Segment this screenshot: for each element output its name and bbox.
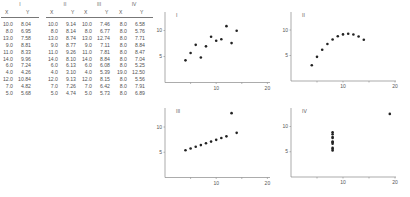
- data-point: [200, 56, 203, 59]
- data-point: [342, 33, 345, 36]
- x-tick-label: 10: [213, 180, 219, 186]
- x-tick-label: 10: [213, 85, 219, 91]
- data-point: [184, 149, 187, 152]
- data-point: [321, 48, 324, 51]
- scatter-plot-ii: 1020510II: [282, 12, 398, 89]
- data-point: [220, 38, 223, 41]
- data-point: [331, 38, 334, 41]
- scatter-plots: 1020510I1020510II1020510III1020510IV: [0, 0, 410, 197]
- data-point: [215, 139, 218, 142]
- y-tick-label: 5: [159, 53, 162, 59]
- panel-label: III: [176, 108, 180, 114]
- y-tick-label: 5: [285, 52, 288, 58]
- data-point: [363, 38, 366, 41]
- y-tick-label: 5: [159, 149, 162, 155]
- data-point: [347, 32, 350, 35]
- scatter-plot-iv: 1020510IV: [282, 108, 398, 185]
- x-tick-label: 20: [265, 180, 271, 186]
- data-point: [352, 33, 355, 36]
- data-point: [220, 137, 223, 140]
- data-point: [235, 29, 238, 32]
- data-point: [225, 25, 228, 28]
- panel-label: I: [176, 12, 177, 18]
- data-point: [205, 142, 208, 145]
- x-tick-label: 20: [392, 179, 398, 185]
- data-point: [194, 145, 197, 148]
- data-point: [215, 39, 218, 42]
- scatter-plot-iii: 1020510III: [156, 108, 270, 186]
- scatter-plot-i: 1020510I: [156, 12, 270, 91]
- data-point: [331, 141, 334, 144]
- y-tick-label: 10: [282, 123, 288, 129]
- x-tick-label: 20: [392, 83, 398, 89]
- data-point: [337, 35, 340, 38]
- data-point: [357, 35, 360, 38]
- data-point: [235, 132, 238, 135]
- panel-label: IV: [302, 108, 307, 114]
- data-point: [210, 140, 213, 143]
- data-point: [389, 113, 392, 116]
- data-point: [311, 64, 314, 67]
- y-tick-label: 10: [156, 124, 162, 130]
- data-point: [316, 56, 319, 59]
- data-point: [326, 43, 329, 46]
- data-point: [205, 45, 208, 48]
- data-point: [230, 42, 233, 45]
- data-point: [189, 147, 192, 150]
- data-point: [225, 135, 228, 138]
- panel-label: II: [302, 12, 305, 18]
- data-point: [230, 112, 233, 115]
- data-point: [189, 52, 192, 55]
- x-tick-label: 20: [265, 85, 271, 91]
- data-point: [331, 148, 334, 151]
- data-point: [210, 35, 213, 38]
- x-tick-label: 10: [340, 179, 346, 185]
- y-tick-label: 10: [282, 27, 288, 33]
- y-tick-label: 5: [285, 148, 288, 154]
- data-point: [194, 44, 197, 47]
- x-tick-label: 10: [340, 83, 346, 89]
- y-tick-label: 10: [156, 27, 162, 33]
- data-point: [331, 136, 334, 139]
- data-point: [331, 133, 334, 136]
- data-point: [184, 59, 187, 62]
- data-point: [200, 144, 203, 147]
